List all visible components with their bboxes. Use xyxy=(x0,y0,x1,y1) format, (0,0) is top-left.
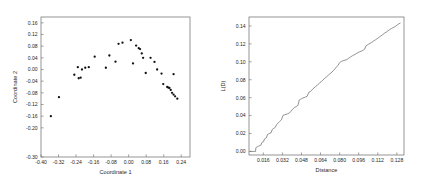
y-tick-label: 0.08 xyxy=(28,43,38,49)
scatter-point xyxy=(121,42,123,44)
scatter-point xyxy=(58,96,60,98)
x-tick-label: 0.096 xyxy=(352,157,365,163)
x-axis-title: Coordinate 1 xyxy=(99,169,131,175)
scatter-point xyxy=(170,89,172,91)
scatter-point xyxy=(132,62,134,64)
scatter-point xyxy=(149,57,151,59)
scatter-point xyxy=(168,87,170,89)
y-tick-label: -0.20 xyxy=(26,125,38,131)
scatter-point xyxy=(142,57,144,59)
scatter-point xyxy=(174,95,176,97)
x-tick-label: 0.112 xyxy=(372,157,385,163)
x-tick-label: 0.128 xyxy=(390,157,403,163)
scatter-point xyxy=(80,77,82,79)
y-tick-label: 0.16 xyxy=(28,20,38,26)
x-tick-label: 0.08 xyxy=(141,159,151,165)
scatter-point xyxy=(50,115,52,117)
y-tick-label: 0.10 xyxy=(236,59,246,65)
scatter-point xyxy=(108,54,110,56)
x-tick-label: 0.080 xyxy=(333,157,346,163)
y-tick-label: 0.04 xyxy=(236,112,246,118)
y-tick-label: 0.00 xyxy=(28,66,38,72)
y-tick-label: -0.12 xyxy=(26,101,38,107)
y-tick-label: 0.14 xyxy=(236,23,246,29)
scatter-point xyxy=(81,68,83,70)
y-axis-title: Coordinate 2 xyxy=(12,71,18,103)
scatter-point xyxy=(114,60,116,62)
y-tick-label: 0.12 xyxy=(28,31,38,37)
line-plot-panel: 0.0160.0320.0480.0640.0800.0960.1120.128… xyxy=(205,0,421,190)
x-tick-label: 0.00 xyxy=(124,159,134,165)
y-tick-label: 0.04 xyxy=(28,55,38,61)
plot-frame xyxy=(249,17,404,155)
scatter-point xyxy=(160,72,162,74)
scatter-point xyxy=(141,52,143,54)
scatter-plot-svg: -0.40-0.32-0.24-0.16-0.080.000.080.160.2… xyxy=(0,0,205,190)
scatter-point xyxy=(172,93,174,95)
scatter-point xyxy=(117,43,119,45)
figure-container: -0.40-0.32-0.24-0.16-0.080.000.080.160.2… xyxy=(0,0,421,190)
scatter-point xyxy=(130,39,132,41)
x-tick-label: 0.016 xyxy=(257,157,270,163)
y-tick-label: -0.08 xyxy=(26,90,38,96)
y-tick-label: 0.02 xyxy=(236,130,246,136)
scatter-point xyxy=(156,68,158,70)
x-tick-label: 0.048 xyxy=(295,157,308,163)
scatter-point xyxy=(145,72,147,74)
x-tick-label: 0.24 xyxy=(176,159,186,165)
y-tick-label: 0.06 xyxy=(236,95,246,101)
scatter-point xyxy=(88,66,90,68)
scatter-point xyxy=(105,67,107,69)
scatter-point xyxy=(176,98,178,100)
scatter-point xyxy=(172,73,174,75)
line-plot-svg: 0.0160.0320.0480.0640.0800.0960.1120.128… xyxy=(205,0,421,190)
scatter-point xyxy=(139,48,141,50)
scatter-point xyxy=(84,67,86,69)
y-tick-label: -0.04 xyxy=(26,78,38,84)
line-curve xyxy=(250,23,400,151)
y-tick-label: 0.00 xyxy=(236,148,246,154)
x-tick-label: 0.064 xyxy=(314,157,327,163)
y-tick-label: 0.12 xyxy=(236,41,246,47)
y-tick-label: 0.08 xyxy=(236,77,246,83)
scatter-plot-panel: -0.40-0.32-0.24-0.16-0.080.000.080.160.2… xyxy=(0,0,205,190)
x-tick-label: -0.32 xyxy=(53,159,65,165)
x-tick-label: 0.032 xyxy=(276,157,289,163)
scatter-points-group xyxy=(50,39,179,117)
scatter-point xyxy=(73,74,75,76)
y-axis-title: L(D) xyxy=(220,80,226,91)
y-tick-label: -0.16 xyxy=(26,113,38,119)
x-tick-label: -0.40 xyxy=(35,159,47,165)
scatter-point xyxy=(78,77,80,79)
x-tick-label: -0.16 xyxy=(88,159,100,165)
scatter-point xyxy=(171,92,173,94)
y-tick-label: -0.30 xyxy=(26,154,38,160)
scatter-point xyxy=(162,83,164,85)
x-tick-label: -0.24 xyxy=(70,159,82,165)
scatter-point xyxy=(77,66,79,68)
x-tick-label: -0.08 xyxy=(105,159,117,165)
scatter-point xyxy=(94,56,96,58)
x-tick-label: 0.16 xyxy=(159,159,169,165)
scatter-point xyxy=(153,61,155,63)
x-axis-title: Distance xyxy=(316,167,338,173)
scatter-point xyxy=(135,44,137,46)
